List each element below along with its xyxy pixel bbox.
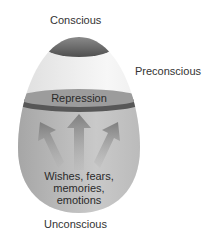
content-line-3: emotions [34,194,124,206]
unconscious-contents: Wishes, fears, memories, emotions [34,170,124,206]
content-line-1: Wishes, fears, [34,170,124,182]
unconscious-region [0,97,214,235]
content-line-2: memories, [34,182,124,194]
label-unconscious: Unconscious [44,218,107,230]
conscious-cap [45,37,113,57]
label-repression: Repression [49,92,109,104]
